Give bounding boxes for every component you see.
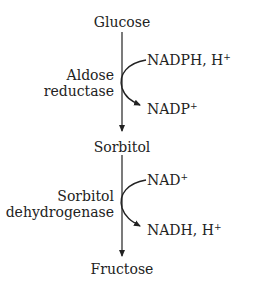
cofactor-nadph: NADPH, H+ — [147, 52, 231, 68]
enzyme-label-line2: dehydrogenase — [6, 204, 114, 220]
enzyme-label-line1: Aldose — [44, 67, 114, 83]
metabolite-fructose: Fructose — [91, 261, 154, 277]
cofactor-nad: NAD+ — [147, 172, 188, 188]
charge-sup: + — [223, 52, 231, 62]
cofactor-text: NADH, H — [147, 222, 214, 238]
enzyme-aldose-reductase: Aldose reductase — [44, 67, 114, 99]
charge-sup: + — [181, 172, 189, 182]
cofactor-arrow-1 — [121, 60, 146, 105]
cofactor-text: NAD — [147, 172, 181, 188]
enzyme-sorbitol-dehydrogenase: Sorbitol dehydrogenase — [6, 188, 114, 220]
cofactor-arrow-2 — [121, 180, 146, 226]
cofactor-text: NADP — [147, 101, 190, 117]
cofactor-nadh: NADH, H+ — [147, 222, 221, 238]
charge-sup: + — [190, 101, 198, 111]
metabolite-sorbitol: Sorbitol — [94, 139, 151, 155]
cofactor-text: NADPH, H — [147, 52, 223, 68]
enzyme-label-line2: reductase — [44, 83, 114, 99]
enzyme-label-line1: Sorbitol — [6, 188, 114, 204]
charge-sup: + — [214, 222, 222, 232]
metabolite-glucose: Glucose — [94, 14, 150, 30]
cofactor-nadp: NADP+ — [147, 101, 198, 117]
